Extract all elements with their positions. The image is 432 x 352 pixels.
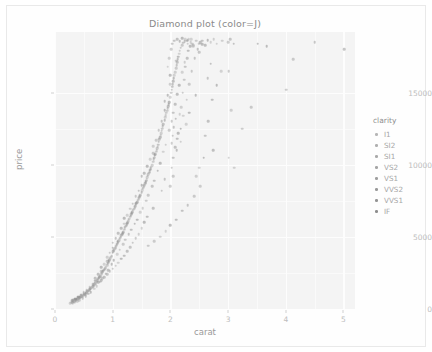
data-point <box>114 237 117 240</box>
data-point <box>186 57 189 60</box>
legend-item-label: VS1 <box>384 174 398 183</box>
data-point <box>175 64 178 67</box>
data-point <box>176 61 179 64</box>
data-point <box>190 70 193 73</box>
data-point <box>97 281 100 284</box>
data-point <box>172 175 175 178</box>
grid-line-minor-vertical <box>257 32 258 309</box>
legend-dot-icon <box>375 188 378 191</box>
data-point <box>129 246 132 249</box>
legend-item[interactable]: VS2 <box>372 162 403 173</box>
data-point <box>169 185 172 188</box>
legend-item[interactable]: VVS2 <box>372 184 403 195</box>
legend-item-label: I1 <box>384 130 391 139</box>
data-point <box>109 251 112 254</box>
x-axis-tick-label: 1 <box>110 315 115 324</box>
data-point <box>171 86 174 89</box>
x-axis-tick-label: 3 <box>226 315 231 324</box>
data-point <box>147 244 150 247</box>
data-point <box>83 292 86 295</box>
data-point <box>146 215 149 218</box>
y-axis-title: price <box>14 149 24 170</box>
y-axis-tick-mark <box>51 92 54 93</box>
data-point <box>158 129 161 132</box>
data-point <box>100 266 103 269</box>
data-point <box>113 259 116 262</box>
data-point <box>140 175 143 178</box>
data-point <box>170 142 173 145</box>
y-axis-tick-label: 5000 <box>385 232 432 241</box>
data-point <box>106 256 109 259</box>
x-axis-tick-mark <box>343 310 344 313</box>
grid-line-vertical <box>228 32 229 309</box>
data-point <box>109 270 112 273</box>
data-point <box>123 254 126 257</box>
data-point <box>198 166 201 169</box>
data-point <box>181 71 184 74</box>
data-point <box>116 253 119 256</box>
data-point <box>170 88 173 91</box>
data-point <box>145 200 148 203</box>
data-point <box>168 57 171 60</box>
data-point <box>143 172 146 175</box>
legend-swatch-icon <box>372 174 381 183</box>
data-point <box>227 156 230 159</box>
data-point <box>89 291 92 294</box>
data-point <box>151 185 154 188</box>
data-point <box>176 93 179 96</box>
data-point <box>164 143 167 146</box>
grid-line-minor-horizontal <box>55 129 355 130</box>
data-point <box>183 78 186 81</box>
grid-line-horizontal <box>55 165 355 166</box>
legend-item[interactable]: SI1 <box>372 151 403 162</box>
data-point <box>170 120 173 123</box>
x-axis-tick-label: 5 <box>341 315 346 324</box>
data-point <box>168 129 171 132</box>
data-point <box>192 45 195 48</box>
data-point <box>220 70 223 73</box>
data-point <box>120 257 123 260</box>
data-point <box>168 101 171 104</box>
data-point <box>313 41 316 44</box>
data-point <box>175 149 178 152</box>
data-point <box>153 179 156 182</box>
data-point <box>179 127 182 130</box>
legend-item[interactable]: SI2 <box>372 140 403 151</box>
data-point <box>195 175 198 178</box>
data-point <box>117 262 120 265</box>
data-point <box>74 298 77 301</box>
data-point <box>178 52 181 55</box>
grid-line-minor-horizontal <box>55 201 355 202</box>
data-point <box>175 218 178 221</box>
data-point <box>178 84 181 87</box>
data-point <box>122 243 125 246</box>
data-point <box>100 279 103 282</box>
data-point <box>177 132 180 135</box>
data-point <box>164 230 167 233</box>
legend-item[interactable]: IF <box>372 206 403 217</box>
data-point <box>173 74 176 77</box>
x-axis-title: carat <box>55 327 355 337</box>
data-point <box>185 99 188 102</box>
legend-item[interactable]: I1 <box>372 129 403 140</box>
y-axis-tick-label: 15000 <box>385 88 432 97</box>
legend-dot-icon <box>375 133 378 136</box>
legend-item[interactable]: VS1 <box>372 173 403 184</box>
data-point <box>184 61 187 64</box>
data-point <box>133 223 136 226</box>
x-axis-tick-mark <box>112 310 113 313</box>
legend-dot-icon <box>375 144 378 147</box>
data-point <box>169 74 172 77</box>
legend-item-label: VS2 <box>384 163 398 172</box>
data-point <box>136 218 139 221</box>
legend-item[interactable]: VVS1 <box>372 195 403 206</box>
grid-line-vertical <box>286 32 287 309</box>
data-point <box>177 58 180 61</box>
data-point <box>171 135 174 138</box>
data-point <box>215 84 218 87</box>
data-point <box>141 207 144 210</box>
data-point <box>152 207 155 210</box>
legend-dot-icon <box>375 210 378 213</box>
data-point <box>160 120 163 123</box>
data-point <box>181 91 184 94</box>
